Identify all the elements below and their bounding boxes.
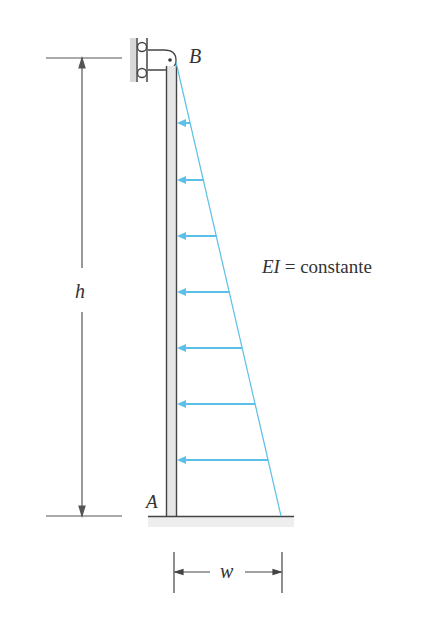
- arrowhead-icon: [177, 344, 186, 352]
- load-envelope: [176, 62, 281, 516]
- arrowhead-icon: [177, 119, 186, 127]
- stiffness-ei: EI: [262, 256, 280, 277]
- column: [167, 66, 177, 516]
- fixed-ground: [148, 517, 294, 528]
- stiffness-label: EI = constante: [262, 256, 372, 278]
- arrowhead-icon: [177, 288, 186, 296]
- arrowhead-icon: [177, 232, 186, 240]
- distributed-load-arrows: [177, 119, 268, 464]
- arrowhead-icon: [177, 456, 186, 464]
- label-w: w: [220, 560, 233, 583]
- arrowhead-icon: [177, 176, 186, 184]
- label-A: A: [146, 491, 158, 513]
- stiffness-value: = constante: [280, 256, 372, 277]
- label-h: h: [75, 280, 85, 303]
- beam-diagram: [0, 0, 428, 622]
- label-B: B: [189, 45, 201, 68]
- arrowhead-icon: [177, 400, 186, 408]
